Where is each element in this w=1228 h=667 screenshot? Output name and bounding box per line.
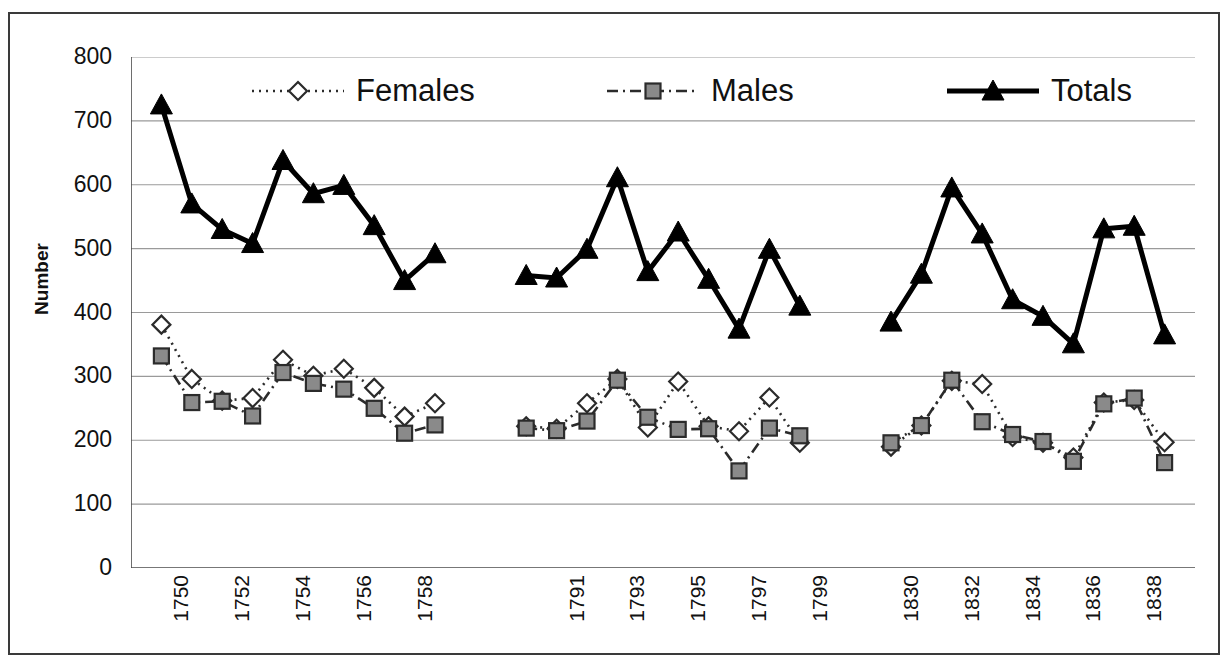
data-point-marker: [975, 414, 990, 429]
data-point-marker: [306, 376, 321, 391]
x-axis-tick-labels: 1750175217541756175817911793179517971799…: [131, 575, 1195, 667]
data-point-marker: [150, 94, 172, 114]
x-axis-tick-label: 1795: [686, 575, 710, 659]
data-point-marker: [215, 394, 230, 409]
data-point-marker: [1066, 454, 1081, 469]
data-point-marker: [335, 360, 353, 378]
x-axis-tick-label: 1758: [413, 575, 437, 659]
data-point-marker: [1096, 396, 1111, 411]
x-axis-tick-label: 1756: [352, 575, 376, 659]
data-point-marker: [944, 373, 959, 388]
data-point-marker: [701, 421, 716, 436]
data-point-marker: [1005, 427, 1020, 442]
filled-triangle-marker-icon: [945, 74, 1041, 108]
data-point-marker: [914, 418, 929, 433]
legend-label: Females: [356, 73, 475, 109]
data-point-marker: [789, 295, 811, 315]
data-point-marker: [365, 379, 383, 397]
x-axis-tick-label: 1750: [169, 575, 193, 659]
chart-svg: [131, 57, 1195, 568]
data-point-marker: [669, 372, 687, 390]
series-line: [526, 379, 800, 443]
series-males: [154, 348, 1172, 478]
x-axis-tick-label: 1754: [291, 575, 315, 659]
data-point-marker: [396, 408, 414, 426]
data-point-marker: [336, 382, 351, 397]
legend-entry-females: Females: [250, 62, 475, 120]
legend-entry-males: Males: [605, 62, 794, 120]
data-point-marker: [646, 84, 661, 99]
legend-entry-totals: Totals: [945, 62, 1132, 120]
x-axis-tick-label: 1838: [1142, 575, 1166, 659]
data-point-marker: [184, 395, 199, 410]
data-point-marker: [519, 421, 534, 436]
data-point-marker: [276, 365, 291, 380]
series-line: [161, 325, 435, 417]
data-point-marker: [245, 408, 260, 423]
y-axis-tick-labels: 0100200300400500600700800: [48, 0, 112, 667]
data-point-marker: [762, 421, 777, 436]
data-point-marker: [244, 389, 262, 407]
data-point-marker: [1157, 455, 1172, 470]
data-point-marker: [154, 348, 169, 363]
data-point-marker: [181, 193, 203, 213]
data-point-marker: [910, 263, 932, 283]
data-point-marker: [671, 422, 686, 437]
y-axis-tick-label: 200: [48, 428, 112, 451]
data-point-marker: [578, 394, 596, 412]
y-axis-tick-label: 600: [48, 173, 112, 196]
x-axis-tick-label: 1791: [565, 575, 589, 659]
data-point-marker: [1036, 434, 1051, 449]
y-axis-tick-label: 100: [48, 492, 112, 515]
x-axis-tick-label: 1793: [625, 575, 649, 659]
y-axis-tick-label: 700: [48, 109, 112, 132]
data-point-marker: [792, 428, 807, 443]
y-axis-tick-label: 0: [48, 556, 112, 579]
data-point-marker: [973, 375, 991, 393]
legend-label: Totals: [1051, 73, 1132, 109]
x-axis-tick-label: 1832: [960, 575, 984, 659]
chart-legend: FemalesMalesTotals: [250, 62, 1190, 120]
x-axis-tick-label: 1799: [808, 575, 832, 659]
data-point-marker: [884, 435, 899, 450]
data-point-marker: [272, 149, 294, 169]
series-line: [891, 381, 1165, 458]
data-point-marker: [428, 417, 443, 432]
plot-area: [131, 57, 1195, 568]
data-point-marker: [606, 167, 628, 187]
y-axis-tick-label: 800: [48, 45, 112, 68]
data-point-marker: [152, 316, 170, 334]
data-point-marker: [610, 373, 625, 388]
data-point-marker: [1002, 289, 1024, 309]
data-point-marker: [367, 401, 382, 416]
data-point-marker: [941, 177, 963, 197]
open-diamond-marker-icon: [250, 74, 346, 108]
series-line: [891, 380, 1165, 462]
y-axis-tick-label: 400: [48, 301, 112, 324]
data-point-marker: [424, 243, 446, 263]
x-axis-tick-label: 1830: [899, 575, 923, 659]
data-point-marker: [1154, 324, 1176, 344]
series-line: [526, 380, 800, 471]
data-point-marker: [397, 426, 412, 441]
series-line: [891, 188, 1165, 344]
series-line: [526, 178, 800, 329]
filled-square-marker-icon: [605, 74, 701, 108]
data-point-marker: [183, 370, 201, 388]
data-point-marker: [549, 423, 564, 438]
data-point-marker: [580, 414, 595, 429]
data-point-marker: [667, 221, 689, 241]
x-axis-tick-label: 1834: [1021, 575, 1045, 659]
series-line: [161, 105, 435, 281]
data-point-marker: [732, 463, 747, 478]
y-axis-tick-label: 300: [48, 364, 112, 387]
chart-page: Number 0100200300400500600700800 1750175…: [0, 0, 1228, 667]
data-point-marker: [426, 394, 444, 412]
data-point-marker: [289, 82, 307, 100]
x-axis-tick-label: 1836: [1081, 575, 1105, 659]
legend-label: Males: [711, 73, 794, 109]
series-totals: [150, 94, 1175, 353]
data-point-marker: [640, 410, 655, 425]
x-axis-tick-label: 1797: [747, 575, 771, 659]
x-axis-tick-label: 1752: [230, 575, 254, 659]
